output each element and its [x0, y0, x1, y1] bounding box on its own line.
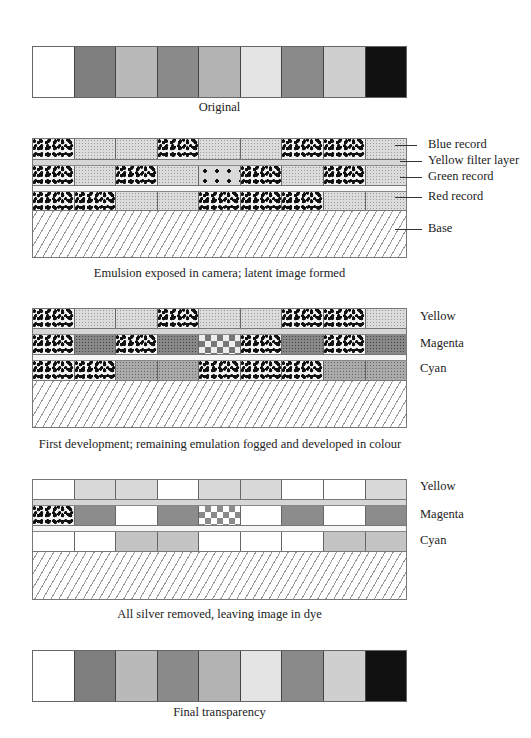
- layer-cell: [324, 309, 366, 328]
- layer-cell: [282, 506, 324, 525]
- layer-cell: [199, 335, 241, 354]
- layer-cell: [324, 335, 366, 354]
- color-swatch: [241, 47, 283, 97]
- layer-red-record: [33, 192, 406, 211]
- color-swatch: [33, 47, 75, 97]
- layer-cell: [158, 361, 200, 380]
- layer-cell: [116, 309, 158, 328]
- layer-yellow: [33, 480, 406, 500]
- caption-final: Final transparency: [32, 705, 407, 720]
- layer-green-record: [33, 166, 406, 186]
- layer-cell: [324, 361, 366, 380]
- caption-original: Original: [32, 100, 407, 115]
- layer-cell: [324, 166, 366, 185]
- layer-cell: [282, 139, 324, 159]
- layer-magenta: [33, 335, 406, 355]
- color-swatch: [366, 651, 407, 701]
- layer-cell: [199, 192, 241, 210]
- layer-cell: [282, 335, 324, 354]
- layer-cell: [158, 532, 200, 551]
- color-swatch: [116, 47, 158, 97]
- final-strip: [32, 650, 407, 702]
- color-swatch: [282, 47, 324, 97]
- leader-line: [395, 229, 422, 230]
- layer-cell: [366, 335, 407, 354]
- layer-cell: [33, 335, 75, 354]
- layer-cell: [199, 139, 241, 159]
- color-swatch: [366, 47, 407, 97]
- caption-silver-removed: All silver removed, leaving image in dye: [32, 607, 407, 622]
- layer-cell: [75, 361, 117, 380]
- layer-cell: [116, 532, 158, 551]
- leader-line: [395, 197, 422, 198]
- layer-cell: [366, 192, 407, 210]
- leader-line: [395, 145, 417, 146]
- layer-cell: [33, 506, 75, 525]
- layer-cell: [324, 192, 366, 210]
- layer-cell: [33, 532, 75, 551]
- caption-exposure: Emulsion exposed in camera; latent image…: [32, 266, 407, 281]
- layer-cell: [33, 361, 75, 380]
- layer-cell: [75, 506, 117, 525]
- layer-cell: [199, 309, 241, 328]
- layer-cell: [116, 139, 158, 159]
- layer-cell: [366, 480, 407, 499]
- layer-cell: [241, 309, 283, 328]
- layer-cell: [33, 192, 75, 210]
- color-swatch: [158, 651, 200, 701]
- label-base: Base: [428, 221, 452, 236]
- film-base: [33, 381, 406, 427]
- layer-cell: [199, 480, 241, 499]
- layer-cell: [282, 480, 324, 499]
- layer-cell: [75, 309, 117, 328]
- film-base: [33, 211, 406, 257]
- layer-cell: [116, 480, 158, 499]
- layer-cell: [75, 532, 117, 551]
- layer-cell: [241, 506, 283, 525]
- layer-cell: [158, 192, 200, 210]
- layer-cell: [241, 139, 283, 159]
- layer-blue-record: [33, 139, 406, 160]
- color-swatch: [33, 651, 75, 701]
- layer-cell: [158, 335, 200, 354]
- color-swatch: [116, 651, 158, 701]
- color-swatch: [199, 651, 241, 701]
- color-swatch: [158, 47, 200, 97]
- label-magenta: Magenta: [420, 336, 464, 351]
- layer-cell: [366, 532, 407, 551]
- layer-magenta: [33, 506, 406, 526]
- layer-cell: [241, 480, 283, 499]
- layer-cell: [324, 139, 366, 159]
- label-magenta: Magenta: [420, 507, 464, 522]
- color-swatch: [324, 651, 366, 701]
- film-silver-removed: [32, 479, 407, 600]
- layer-cell: [116, 506, 158, 525]
- layer-cell: [75, 480, 117, 499]
- color-swatch: [324, 47, 366, 97]
- layer-cell: [33, 309, 75, 328]
- layer-cell: [366, 361, 407, 380]
- color-swatch: [241, 651, 283, 701]
- layer-cell: [33, 139, 75, 159]
- layer-cell: [116, 166, 158, 185]
- layer-cell: [33, 480, 75, 499]
- layer-cell: [33, 166, 75, 185]
- layer-yellow: [33, 309, 406, 329]
- layer-cell: [158, 309, 200, 328]
- layer-cyan: [33, 361, 406, 381]
- layer-cell: [324, 480, 366, 499]
- layer-cell: [75, 192, 117, 210]
- layer-cell: [241, 166, 283, 185]
- layer-cell: [116, 192, 158, 210]
- film-first-development: [32, 308, 407, 428]
- layer-cell: [199, 361, 241, 380]
- label-yellow: Yellow: [420, 309, 456, 324]
- layer-cell: [366, 506, 407, 525]
- layer-cell: [158, 506, 200, 525]
- leader-line: [400, 161, 422, 162]
- label-blue-record: Blue record: [428, 137, 487, 152]
- layer-cell: [75, 166, 117, 185]
- layer-cell: [282, 166, 324, 185]
- layer-cell: [199, 166, 241, 185]
- layer-cell: [158, 480, 200, 499]
